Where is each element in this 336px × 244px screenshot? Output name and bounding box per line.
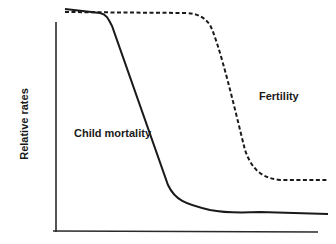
y-axis-label: Relative rates [18,84,30,164]
child-mortality-label: Child mortality [74,127,151,139]
chart-canvas [0,0,336,244]
child-mortality-line [65,9,328,214]
x-axis [53,231,318,232]
fertility-label: Fertility [259,90,299,102]
